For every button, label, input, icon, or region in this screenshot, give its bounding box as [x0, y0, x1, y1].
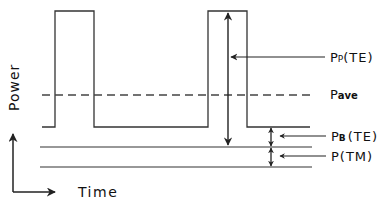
average-power-label: Pave	[330, 87, 358, 102]
peak-label-suffix: (TE)	[343, 50, 373, 65]
base-label-suffix: (TE)	[348, 129, 378, 144]
power-time-diagram: Power Time PP(TE) Pave PB(TE) P(TM)	[0, 0, 388, 207]
base-label-sub: B	[339, 133, 346, 143]
y-axis-label: Power	[6, 64, 22, 111]
average-label-main: P	[330, 87, 338, 102]
tm-power-label: P(TM)	[331, 149, 373, 164]
te-pulse-waveform	[42, 11, 310, 127]
tm-label-main: P	[331, 149, 339, 164]
peak-power-label: PP(TE)	[330, 50, 374, 65]
peak-label-main: P	[330, 50, 338, 65]
base-label-main: P	[331, 129, 339, 144]
average-label-sub: ave	[338, 90, 358, 101]
tm-label-suffix: (TM)	[340, 149, 373, 164]
base-power-label: PB(TE)	[331, 129, 378, 144]
x-axis-label: Time	[77, 184, 118, 200]
